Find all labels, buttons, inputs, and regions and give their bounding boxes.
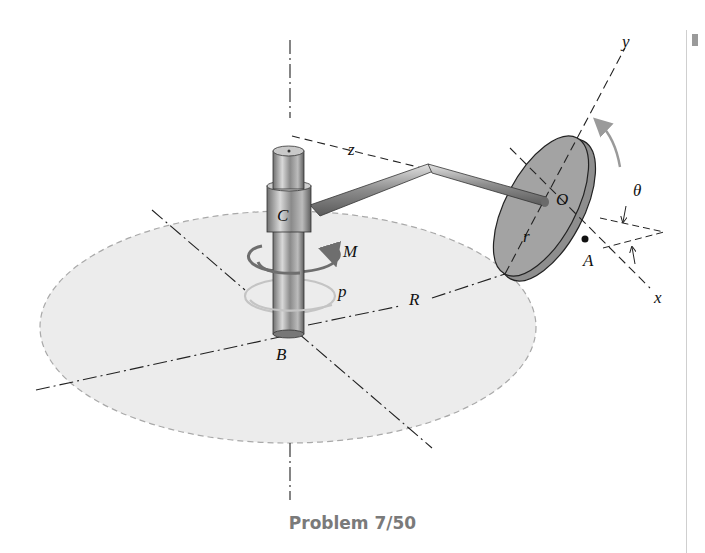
vertical-shaft xyxy=(273,228,304,338)
label-c: C xyxy=(277,206,289,225)
figure-caption: Problem 7/50 xyxy=(0,513,705,533)
disk-rotation-arrow xyxy=(600,124,620,167)
label-theta: θ xyxy=(633,181,641,200)
label-o: O xyxy=(556,190,568,209)
mechanics-diagram: y z x O θ A r C M p R B xyxy=(0,0,705,553)
label-z: z xyxy=(347,140,355,159)
page-margin-rule xyxy=(686,30,687,553)
label-p: p xyxy=(337,282,347,301)
label-x: x xyxy=(653,288,662,307)
theta-lines xyxy=(600,218,664,248)
label-a: A xyxy=(582,251,594,270)
point-a-dot xyxy=(582,236,589,243)
label-b: B xyxy=(276,345,287,364)
shaft-top xyxy=(273,146,304,189)
page-edge-marker xyxy=(692,34,698,46)
label-r-big: R xyxy=(408,290,420,309)
label-m: M xyxy=(342,242,358,261)
theta-arrows xyxy=(623,206,635,264)
label-y: y xyxy=(620,32,630,51)
label-r-small: r xyxy=(523,227,530,246)
